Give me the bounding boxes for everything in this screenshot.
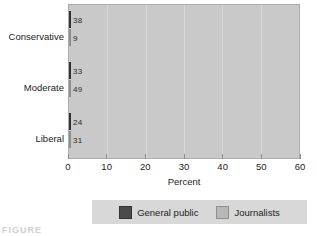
legend-entry-general-public[interactable]: General public [119,206,198,219]
x-tick-mark-60 [300,154,301,159]
category-label-moderate: Moderate [0,82,64,93]
bar-value-label: 49 [73,84,82,93]
chart-legend: General public Journalists [92,200,307,224]
figure-caption-text: FIGURE [2,225,42,235]
category-label-conservative: Conservative [0,31,64,42]
x-axis-title: Percent [68,176,300,187]
figure-container: Conservative Moderate Liberal 38 9 33 [0,0,317,236]
y-axis-category-labels: Conservative Moderate Liberal [0,4,64,159]
bar-group-liberal: 24 31 [69,113,299,152]
x-tick-mark-40 [222,154,223,159]
x-tick-mark-50 [261,154,262,159]
bar-value-label: 9 [73,33,78,42]
x-tick-label-60: 60 [295,161,306,172]
figure-caption-chip: FIGURE [0,219,78,236]
bar-journalists-liberal[interactable] [69,131,71,148]
x-tick-label-20: 20 [140,161,151,172]
x-tick-label-0: 0 [65,161,70,172]
x-tick-label-30: 30 [179,161,190,172]
bar-general-public-conservative[interactable] [69,11,71,28]
legend-label: Journalists [234,207,279,218]
x-tick-mark-30 [184,154,185,159]
bar-value-label: 33 [73,66,82,75]
bar-value-label: 31 [73,135,82,144]
x-tick-label-10: 10 [101,161,112,172]
legend-entry-journalists[interactable]: Journalists [216,206,279,219]
bar-value-label: 38 [73,15,82,24]
legend-label: General public [137,207,198,218]
legend-swatch-icon [216,206,229,219]
legend-swatch-icon [119,206,132,219]
bar-journalists-conservative[interactable] [69,29,71,46]
bar-general-public-moderate[interactable] [69,62,71,79]
x-tick-label-40: 40 [217,161,228,172]
x-tick-label-50: 50 [256,161,267,172]
bar-journalists-moderate[interactable] [69,80,71,97]
bar-general-public-liberal[interactable] [69,113,71,130]
bar-value-label: 24 [73,117,82,126]
bar-group-conservative: 38 9 [69,11,299,50]
x-tick-mark-10 [106,154,107,159]
category-label-liberal: Liberal [0,133,64,144]
plot-area: 38 9 33 49 24 [68,4,300,159]
x-tick-mark-0 [68,154,69,159]
x-tick-mark-20 [145,154,146,159]
bar-group-moderate: 33 49 [69,62,299,101]
